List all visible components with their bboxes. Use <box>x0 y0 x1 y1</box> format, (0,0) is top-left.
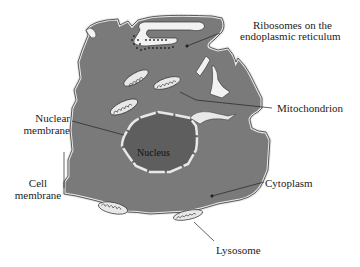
label-cell-membrane: Cell membrane <box>10 177 66 201</box>
label-nuclear-membrane: Nuclear membrane <box>22 112 70 136</box>
label-cytoplasm: Cytoplasm <box>265 177 313 189</box>
label-cell-line1: Cell <box>10 177 66 189</box>
label-nucleus: Nucleus <box>137 147 170 159</box>
label-mitochondrion: Mitochondrion <box>277 102 343 114</box>
label-cell-line2: membrane <box>10 189 66 201</box>
label-nuclear-line1: Nuclear <box>22 112 70 124</box>
label-lysosome: Lysosome <box>216 244 261 256</box>
label-ribosomes-line2: endoplasmic reticulum <box>240 30 341 42</box>
label-nuclear-line2: membrane <box>22 124 70 136</box>
label-ribosomes-line2-text: endoplasmic reticulum <box>240 30 341 42</box>
